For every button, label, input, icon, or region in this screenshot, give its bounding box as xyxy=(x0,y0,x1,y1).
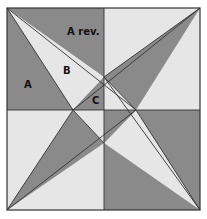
label-a-rev: A rev. xyxy=(67,26,99,37)
label-c: C xyxy=(92,95,99,106)
label-b: B xyxy=(63,65,71,76)
quilt-block-diagram: A rev. A B C xyxy=(0,0,207,219)
label-a: A xyxy=(24,79,32,90)
